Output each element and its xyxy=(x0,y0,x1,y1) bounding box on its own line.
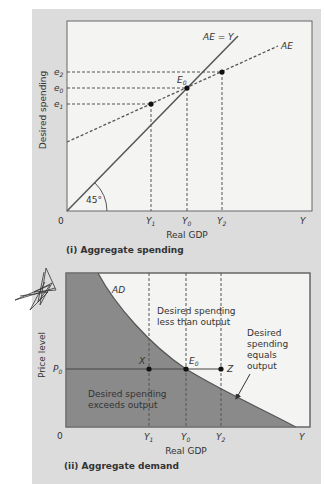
bottom-y1-label: Y1 xyxy=(144,432,153,443)
e2-label: e2 xyxy=(54,67,64,78)
aggregate-demand-chart: AD X E0 Z Desired spending less than out… xyxy=(37,273,310,471)
y1-label: Y1 xyxy=(146,216,155,227)
point-z xyxy=(218,366,223,371)
bottom-chart-title: (ii) Aggregate demand xyxy=(64,461,179,471)
exceeds-output-line2: exceeds output xyxy=(88,400,158,410)
bottom-y-end-label: Y xyxy=(299,432,306,442)
equals-output-line4: output xyxy=(247,361,277,371)
bottom-y2-label: Y2 xyxy=(216,432,226,443)
bottom-x-axis-label: Real GDP xyxy=(165,446,207,456)
bottom-origin-label: 0 xyxy=(57,431,63,441)
aggregate-spending-chart: 45° AE = Y AE E0 e2 e0 e1 0 Y1 Y0 Y2 Y R… xyxy=(38,21,312,255)
bottom-y0-label: Y0 xyxy=(181,432,191,443)
equals-output-line2: spending xyxy=(247,339,288,349)
p0-label: P0 xyxy=(53,364,62,375)
less-than-output-line1: Desired spending xyxy=(157,306,236,316)
angle-label: 45° xyxy=(86,195,102,205)
e0-label: e0 xyxy=(54,83,64,94)
point-e0-bottom xyxy=(183,366,188,371)
bottom-y-axis-label: Price level xyxy=(37,332,47,378)
point-x xyxy=(146,366,151,371)
top-chart-title: (i) Aggregate spending xyxy=(66,245,184,255)
star-scribble-icon xyxy=(15,268,56,310)
equals-output-line3: equals xyxy=(247,350,277,360)
equals-output-line1: Desired xyxy=(247,328,281,338)
point-y1-e1 xyxy=(148,101,153,106)
top-y-end-label: Y xyxy=(300,216,307,226)
top-x-axis-label: Real GDP xyxy=(166,230,208,240)
top-plot-area xyxy=(67,21,312,211)
ae-label: AE xyxy=(280,41,293,51)
less-than-output-line2: less than output xyxy=(157,317,231,327)
top-origin-label: 0 xyxy=(58,216,64,226)
exceeds-output-line1: Desired spending xyxy=(88,389,167,399)
figure-svg: 45° AE = Y AE E0 e2 e0 e1 0 Y1 Y0 Y2 Y R… xyxy=(0,0,324,484)
ae-equals-y-label: AE = Y xyxy=(202,32,235,42)
point-e0 xyxy=(184,85,189,90)
y2-label: Y2 xyxy=(217,216,227,227)
point-y2-e2 xyxy=(219,69,224,74)
ad-label: AD xyxy=(111,285,125,295)
y0-label: Y0 xyxy=(182,216,192,227)
top-y-axis-label: Desired spending xyxy=(38,71,48,150)
z-point-label: Z xyxy=(226,364,234,374)
e1-label: e1 xyxy=(54,99,63,110)
x-point-label: X xyxy=(138,356,146,366)
